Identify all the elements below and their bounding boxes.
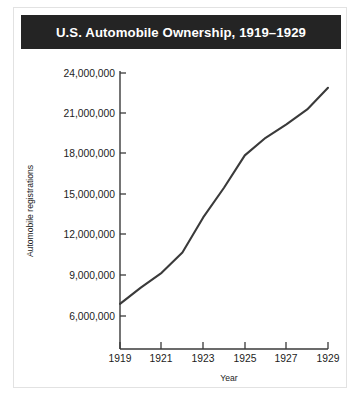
x-tick-label: 1925 (234, 353, 257, 364)
x-tick-label: 1929 (317, 353, 340, 364)
y-tick-label: 9,000,000 (69, 270, 115, 281)
x-tick-label: 1927 (275, 353, 298, 364)
plot-region: 24,000,000 21,000,000 18,000,000 15,000,… (14, 8, 348, 389)
y-tick-label: 21,000,000 (63, 108, 115, 119)
x-tick-label: 1919 (109, 353, 132, 364)
y-axis-ticks (120, 73, 126, 316)
y-axis-title: Automobile registrations (25, 151, 35, 271)
y-tick-label: 24,000,000 (63, 68, 115, 79)
y-tick-label: 18,000,000 (63, 148, 115, 159)
x-axis-title: Year (119, 373, 339, 383)
y-tick-label: 6,000,000 (69, 311, 115, 322)
data-series-line (120, 88, 328, 304)
x-axis-ticks (120, 342, 328, 349)
chart-card: U.S. Automobile Ownership, 1919–1929 24,… (13, 7, 347, 388)
y-tick-label: 12,000,000 (63, 229, 115, 240)
y-tick-label: 15,000,000 (63, 189, 115, 200)
x-tick-label: 1921 (150, 353, 173, 364)
x-tick-label: 1923 (192, 353, 215, 364)
